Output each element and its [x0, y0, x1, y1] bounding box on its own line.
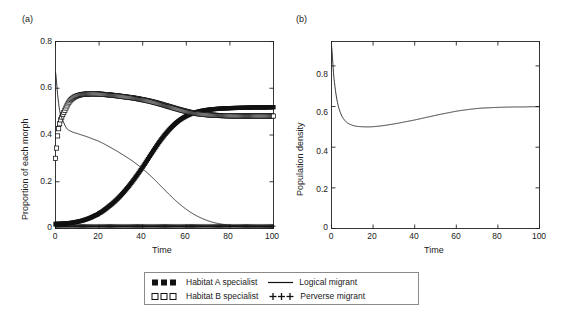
legend-entry-habitat-a: Habitat A specialist: [151, 277, 257, 287]
open-square-marker-icon: [151, 291, 183, 301]
plus-marker-icon: [268, 291, 296, 301]
figure-container: (a) Proportion of each morph Time 0.8 0.…: [0, 0, 563, 310]
legend-entry-habitat-b: Habitat B specialist: [151, 291, 258, 301]
panel-a-label: (a): [22, 14, 33, 24]
panel-a-plot-area: [50, 36, 290, 246]
legend-label-logical-migrant: Logical migrant: [299, 277, 357, 287]
panel-b-x-axis-title: Time: [424, 245, 444, 255]
legend-label-perverse-migrant: Perverse migrant: [300, 291, 365, 301]
filled-square-marker-icon: [151, 277, 183, 287]
panel-b-ytick-0.6: 0.6: [300, 107, 328, 117]
legend-row-1: Habitat A specialist Logical migrant: [151, 275, 412, 289]
legend-entry-perverse-migrant: Perverse migrant: [268, 291, 365, 301]
line-marker-icon: [267, 277, 295, 287]
legend-entry-logical-migrant: Logical migrant: [267, 277, 357, 287]
legend-label-habitat-b: Habitat B specialist: [186, 291, 258, 301]
panel-b-ytick-0.8: 0.8: [300, 69, 328, 79]
panel-b-ytick-0.4: 0.4: [300, 146, 328, 156]
panel-b-label: (b): [296, 14, 307, 24]
panel-a-ytick-0.8: 0.8: [24, 36, 52, 46]
panel-a-ytick-0.2: 0.2: [24, 176, 52, 186]
panel-b-plot-area: [326, 36, 558, 246]
panel-a-ytick-0.4: 0.4: [24, 129, 52, 139]
legend: Habitat A specialist Logical migrant: [144, 272, 419, 305]
panel-a-x-axis-title: Time: [152, 245, 172, 255]
legend-label-habitat-a: Habitat A specialist: [186, 277, 257, 287]
panel-b-ytick-0.2: 0.2: [300, 184, 328, 194]
legend-row-2: Habitat B specialist Perverse migrant: [151, 289, 412, 303]
panel-a-ytick-0.6: 0.6: [24, 82, 52, 92]
